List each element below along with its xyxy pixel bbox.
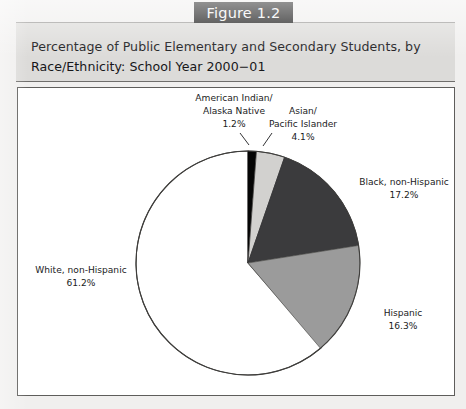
figure-title-line-2: Race/Ethnicity: School Year 2000−01	[31, 57, 441, 77]
label-american-indian-line-1: American Indian/	[195, 93, 273, 103]
label-american-indian-value: 1.2%	[222, 119, 245, 129]
figure-title: Percentage of Public Elementary and Seco…	[31, 37, 441, 77]
label-asian-pacific-islander-value: 4.1%	[291, 132, 314, 142]
figure-title-line-1: Percentage of Public Elementary and Seco…	[31, 37, 441, 57]
label-black-non-hispanic-value: 17.2%	[390, 190, 419, 200]
chart-frame: American Indian/ Alaska Native 1.2% Asia…	[17, 87, 455, 396]
label-hispanic-value: 16.3%	[389, 321, 418, 331]
label-black-non-hispanic-line-1: Black, non-Hispanic	[359, 177, 449, 187]
label-asian-pacific-islander-line-1: Asian/	[289, 106, 318, 116]
label-asian-pacific-islander-line-2: Pacific Islander	[269, 119, 337, 129]
figure-page: Figure 1.2 Percentage of Public Elementa…	[0, 0, 466, 409]
leader-line-asian-pacific-islander	[263, 133, 272, 146]
leader-line-american-indian	[240, 133, 249, 145]
label-white-non-hispanic-value: 61.2%	[67, 278, 96, 288]
pie-chart: American Indian/ Alaska Native 1.2% Asia…	[18, 88, 456, 397]
label-american-indian-line-2: Alaska Native	[203, 106, 265, 116]
label-hispanic-line-1: Hispanic	[384, 308, 423, 318]
label-white-non-hispanic-line-1: White, non-Hispanic	[35, 265, 126, 275]
figure-number-banner: Figure 1.2	[194, 2, 293, 23]
figure-number-label: Figure 1.2	[207, 5, 281, 21]
figure-title-band: Percentage of Public Elementary and Seco…	[16, 22, 455, 82]
